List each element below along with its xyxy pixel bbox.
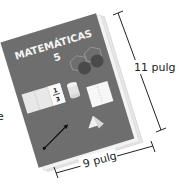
book: MATEMÁTICAS 5 1 3 (0, 11, 142, 173)
edge-fragment-text: e (0, 110, 4, 123)
math-book-diagram: e MATEMÁTICAS 5 1 3 (0, 0, 183, 188)
height-label: 11 pulg (134, 61, 176, 74)
